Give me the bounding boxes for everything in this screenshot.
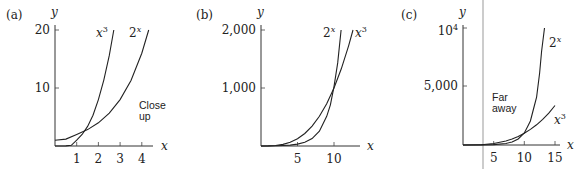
- panel-c-note-line2: away: [492, 102, 517, 114]
- panel-c-tag: (c): [401, 8, 417, 22]
- panel-b-tag: (b): [196, 8, 213, 22]
- panel-c: (c) y x 104 5,000 5 10 15 2x x3 Far away: [401, 0, 574, 169]
- panel-b-ytick-label: 2,000: [222, 23, 256, 37]
- panel-a-xtick-label: 1: [73, 152, 81, 166]
- panel-a-note-line2: up: [139, 110, 151, 122]
- panel-c-xtick-label: 5: [490, 151, 498, 165]
- panel-a-y-axis-label: y: [50, 5, 58, 19]
- panel-c-x-axis-label: x: [567, 138, 574, 152]
- panel-b-ytick-label: 1,000: [222, 81, 256, 95]
- panel-b: (b) y x 2,000 1,000 5 10 2x x3: [196, 5, 374, 166]
- figure-canvas: (a) y x 20 10 1 2 3 4 x3 2x Close up (b: [0, 0, 574, 169]
- panel-b-curve-two-to-x: [261, 30, 341, 146]
- panel-b-xtick-label: 10: [326, 152, 341, 166]
- panel-a-ytick-label: 10: [35, 81, 50, 95]
- panel-c-y-axis-label: y: [458, 5, 466, 19]
- panel-c-ytick-label-top: 104: [438, 23, 458, 38]
- panel-a-xtick-label: 3: [116, 152, 124, 166]
- panel-b-label-x-cubed: x3: [355, 25, 367, 40]
- panel-a-ytick-label: 20: [35, 23, 50, 37]
- panel-c-label-x-cubed: x3: [554, 112, 566, 127]
- panel-a-tag: (a): [6, 8, 23, 22]
- panel-a-curve-x-cubed: [55, 30, 114, 146]
- panel-a-xtick-label: 2: [95, 152, 103, 166]
- panel-a-x-axis-label: x: [161, 139, 168, 153]
- panel-a-label-x-cubed: x3: [96, 25, 108, 40]
- panel-c-xtick-label: 15: [547, 151, 562, 165]
- panel-a: (a) y x 20 10 1 2 3 4 x3 2x Close up: [6, 5, 168, 166]
- panel-c-ytick-label: 5,000: [424, 79, 458, 93]
- panel-c-xtick-label: 10: [517, 151, 532, 165]
- panel-b-y-axis-label: y: [256, 5, 264, 19]
- panel-b-xtick-label: 5: [294, 152, 302, 166]
- panel-a-xtick-label: 4: [138, 152, 146, 166]
- panel-b-label-two-to-x: 2x: [323, 25, 336, 40]
- panel-a-label-two-to-x: 2x: [129, 25, 142, 40]
- panel-c-label-two-to-x: 2x: [549, 35, 562, 50]
- panel-b-x-axis-label: x: [367, 139, 374, 153]
